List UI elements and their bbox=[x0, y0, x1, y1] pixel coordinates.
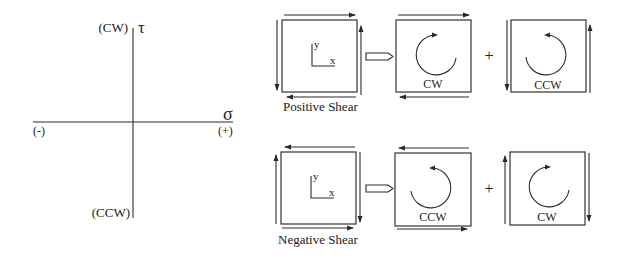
hollow-right-arrow-icon bbox=[366, 185, 393, 192]
positive-component-cw: CW bbox=[396, 15, 471, 97]
rotation-arrowhead-icon bbox=[432, 33, 438, 38]
rotation-label: CW bbox=[423, 77, 443, 91]
tau-negative-label: (CCW) bbox=[92, 205, 130, 220]
sigma-tau-axes: (CW) τ σ (-) (+) (CCW) bbox=[33, 18, 233, 220]
rotation-arrowhead-icon bbox=[429, 166, 435, 171]
sigma-negative-label: (-) bbox=[33, 124, 45, 138]
positive-component-ccw: CCW bbox=[507, 20, 590, 93]
negative-shear-element: y x bbox=[276, 147, 360, 228]
ccw-rotation-arrow-icon bbox=[526, 35, 566, 75]
negative-component-cw: CW bbox=[505, 152, 589, 225]
rotation-label: CCW bbox=[419, 210, 447, 224]
positive-shear-row: y x Positive Shear CW + CCW bbox=[277, 15, 590, 114]
mohr-circle-sign-convention-diagram: (CW) τ σ (-) (+) (CCW) y x Positive Shea… bbox=[0, 0, 621, 258]
x-label: x bbox=[330, 54, 336, 66]
rotation-label: CCW bbox=[534, 78, 562, 92]
negative-shear-caption: Negative Shear bbox=[278, 232, 358, 247]
tau-positive-label: (CW) bbox=[98, 20, 128, 35]
ccw-rotation-arrow-icon bbox=[411, 168, 451, 208]
x-label: x bbox=[329, 186, 335, 198]
sigma-positive-label: (+) bbox=[218, 124, 233, 138]
rotation-label: CW bbox=[537, 210, 557, 224]
cw-rotation-arrow-icon bbox=[416, 35, 456, 75]
negative-component-ccw: CCW bbox=[395, 148, 471, 229]
positive-shear-element: y x bbox=[277, 15, 361, 97]
element-square bbox=[282, 20, 357, 92]
element-square bbox=[281, 152, 356, 224]
rotation-arrowhead-icon bbox=[544, 33, 550, 38]
cw-rotation-arrow-icon bbox=[529, 167, 569, 207]
plus-sign: + bbox=[484, 47, 493, 64]
positive-shear-caption: Positive Shear bbox=[283, 99, 358, 114]
plus-sign: + bbox=[484, 180, 493, 197]
tau-symbol: τ bbox=[138, 18, 145, 37]
hollow-right-arrow-icon bbox=[366, 53, 393, 60]
negative-shear-row: y x Negative Shear CCW + CW bbox=[276, 147, 589, 247]
y-label: y bbox=[313, 170, 319, 182]
y-label: y bbox=[314, 38, 320, 50]
sigma-symbol: σ bbox=[223, 104, 233, 124]
rotation-arrowhead-icon bbox=[545, 165, 551, 170]
